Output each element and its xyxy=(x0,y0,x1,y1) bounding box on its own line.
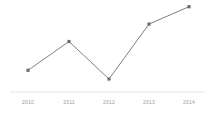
line-chart: 20102011201220132014 xyxy=(0,0,215,118)
data-line-series-1 xyxy=(28,7,189,79)
chart-plot-area xyxy=(0,0,215,118)
data-point-marker[interactable] xyxy=(187,5,190,8)
data-point-marker[interactable] xyxy=(26,69,29,72)
data-point-marker[interactable] xyxy=(67,40,70,43)
data-point-marker[interactable] xyxy=(107,77,110,80)
data-point-marker[interactable] xyxy=(147,23,150,26)
